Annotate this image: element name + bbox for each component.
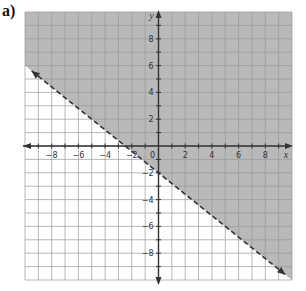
x-tick-label: −4 bbox=[99, 151, 111, 160]
x-tick-label: 8 bbox=[263, 151, 268, 160]
y-tick-label: 2 bbox=[148, 115, 153, 124]
x-tick-label: −8 bbox=[46, 151, 58, 160]
y-tick-label: 6 bbox=[148, 62, 153, 71]
x-tick-label: 0 bbox=[150, 151, 155, 160]
y-tick-label: 8 bbox=[148, 35, 153, 44]
x-tick-label: −6 bbox=[73, 151, 85, 160]
y-tick-label: −2 bbox=[142, 169, 154, 178]
x-tick-label: 4 bbox=[209, 151, 214, 160]
y-tick-label: 4 bbox=[148, 88, 153, 97]
inequality-graph: −8−6−4−2024688642−2−4−6−8xy bbox=[0, 0, 306, 291]
y-tick-label: −4 bbox=[142, 196, 154, 205]
x-tick-label: 2 bbox=[183, 151, 188, 160]
y-tick-label: −6 bbox=[142, 222, 154, 231]
x-axis-label: x bbox=[283, 149, 289, 160]
y-tick-label: −8 bbox=[142, 249, 154, 258]
x-tick-label: 6 bbox=[236, 151, 241, 160]
y-axis-arrow-down-icon bbox=[156, 277, 162, 285]
y-axis-label: y bbox=[148, 10, 154, 21]
